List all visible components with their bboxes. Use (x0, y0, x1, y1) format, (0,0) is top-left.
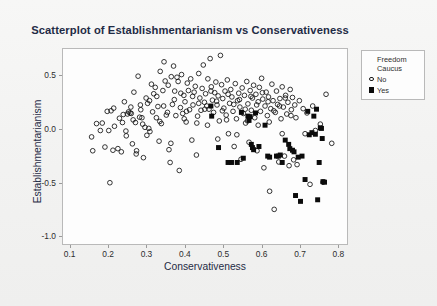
data-point-circle (194, 121, 199, 126)
data-point-square (256, 144, 261, 149)
x-axis-label: Conservativeness (62, 261, 348, 272)
data-point-circle (301, 106, 306, 111)
data-point-circle (249, 108, 254, 113)
data-point-circle (169, 141, 174, 146)
data-point-circle (183, 99, 188, 104)
data-point-square (298, 199, 303, 204)
data-point-circle (240, 86, 245, 91)
y-tick-mark (59, 236, 62, 237)
data-point-square (239, 110, 244, 115)
data-point-circle (238, 105, 243, 110)
x-tick-mark (108, 245, 109, 248)
data-point-circle (225, 78, 230, 83)
data-point-circle (174, 113, 179, 118)
data-point-circle (217, 119, 222, 124)
data-point-circle (150, 110, 155, 115)
x-tick-label: 0.3 (141, 249, 153, 259)
data-point-square (320, 136, 325, 141)
data-point-square (267, 155, 272, 160)
legend-item-no[interactable]: No (366, 74, 420, 84)
data-point-circle (291, 157, 296, 162)
data-point-circle (297, 98, 302, 103)
data-point-circle (303, 131, 308, 136)
data-point-circle (263, 104, 268, 109)
x-tick-label: 0.1 (64, 249, 76, 259)
data-point-square (313, 132, 318, 137)
data-point-circle (274, 89, 279, 94)
data-point-circle (262, 165, 267, 170)
legend-box: Freedom Caucus No Yes (361, 50, 425, 100)
data-point-circle (151, 91, 156, 96)
data-point-circle (231, 102, 236, 107)
data-point-square (322, 180, 327, 185)
data-point-circle (278, 96, 283, 101)
data-point-circle (179, 72, 184, 77)
data-point-circle (90, 148, 95, 153)
data-point-circle (191, 103, 196, 108)
data-point-circle (195, 114, 200, 119)
data-point-circle (220, 96, 225, 101)
data-point-circle (94, 121, 99, 126)
data-point-circle (134, 152, 139, 157)
data-point-circle (252, 115, 257, 120)
data-point-circle (289, 107, 294, 112)
data-point-circle (190, 138, 195, 143)
data-point-square (319, 126, 324, 131)
data-point-circle (117, 116, 122, 121)
data-point-circle (111, 106, 116, 111)
data-point-circle (198, 96, 203, 101)
data-point-circle (185, 81, 190, 86)
data-point-circle (154, 115, 159, 120)
data-point-circle (190, 94, 195, 99)
x-tick-label: 0.4 (179, 249, 191, 259)
data-point-circle (292, 103, 297, 108)
data-point-square (263, 123, 268, 128)
data-point-square (208, 104, 213, 109)
data-point-circle (280, 131, 285, 136)
data-point-circle (233, 81, 238, 86)
data-point-circle (166, 83, 171, 88)
data-point-circle (294, 115, 299, 120)
legend-item-yes[interactable]: Yes (366, 85, 420, 95)
x-tick-label: 0.7 (294, 249, 306, 259)
data-point-square (300, 154, 305, 159)
data-point-circle (234, 116, 239, 121)
data-point-circle (176, 79, 181, 84)
data-point-circle (196, 101, 201, 106)
data-point-square (314, 107, 319, 112)
data-point-circle (266, 95, 271, 100)
data-point-circle (228, 87, 233, 92)
y-tick-label: 0.0 (44, 124, 56, 134)
data-point-square (286, 142, 291, 147)
data-point-circle (201, 63, 206, 68)
data-point-square (317, 160, 322, 165)
data-point-circle (260, 97, 265, 102)
data-point-circle (270, 82, 275, 87)
data-point-square (311, 114, 316, 119)
data-point-circle (138, 107, 143, 112)
data-point-circle (215, 137, 220, 142)
data-point-circle (258, 109, 263, 114)
data-point-circle (172, 97, 177, 102)
data-point-circle (145, 133, 150, 138)
data-point-circle (214, 80, 219, 85)
data-point-circle (98, 128, 103, 133)
data-point-circle (257, 85, 262, 90)
data-point-circle (194, 153, 199, 158)
x-tick-mark (185, 245, 186, 248)
data-point-circle (106, 128, 111, 133)
data-point-circle (108, 180, 113, 185)
chart-title: Scatterplot of Establishmentarianism vs … (0, 24, 380, 36)
data-point-circle (158, 69, 163, 74)
y-tick-label: -0.5 (42, 178, 56, 188)
data-point-circle (279, 116, 284, 121)
data-point-circle (280, 85, 285, 90)
data-point-square (315, 197, 320, 202)
x-tick-label: 0.8 (333, 249, 345, 259)
data-point-circle (120, 120, 125, 125)
data-point-circle (103, 145, 108, 150)
y-axis-label: Establishmentarianism (32, 52, 43, 252)
data-point-circle (186, 88, 191, 93)
data-point-square (283, 138, 288, 143)
data-point-circle (231, 109, 236, 114)
